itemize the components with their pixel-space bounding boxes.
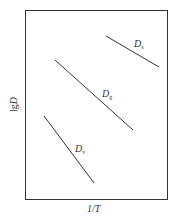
line-grain-boundary-diffusion	[55, 60, 133, 130]
y-axis-label: lgD	[8, 96, 19, 112]
plot-frame	[26, 11, 168, 200]
label-ds: Ds	[133, 38, 144, 50]
label-dg: Dg	[101, 88, 112, 100]
x-axis-label: 1/T	[87, 203, 102, 214]
line-volume-diffusion	[44, 116, 94, 183]
label-dv: Dv	[74, 143, 85, 155]
line-surface-diffusion	[106, 36, 159, 67]
diffusion-diagram: Ds Dg Dv 1/T lgD	[0, 0, 174, 221]
